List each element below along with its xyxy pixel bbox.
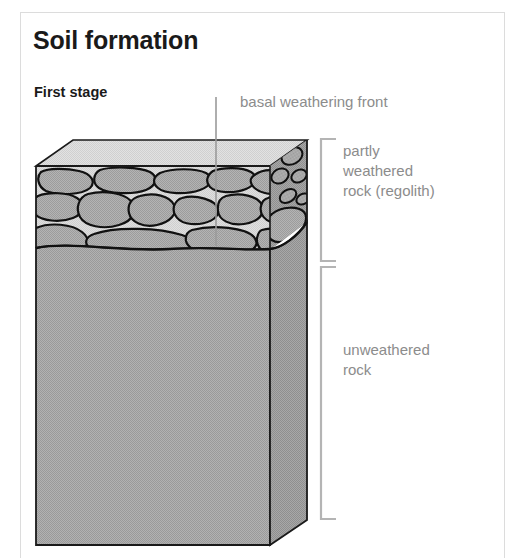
unweathered-bracket xyxy=(321,267,336,519)
label-partly-weathered-rock: partly weathered rock (regolith) xyxy=(343,141,513,201)
block-diagram-svg xyxy=(0,0,519,558)
unweathered-rock-block xyxy=(36,222,307,545)
label-basal-weathering-front: basal weathering front xyxy=(240,92,388,112)
block-top-face xyxy=(36,140,307,166)
regolith-bracket xyxy=(321,139,336,261)
label-unweathered-rock: unweathered rock xyxy=(343,340,513,380)
soil-formation-figure: Soil formation First stage xyxy=(0,0,519,558)
regolith-front-face xyxy=(29,166,298,258)
